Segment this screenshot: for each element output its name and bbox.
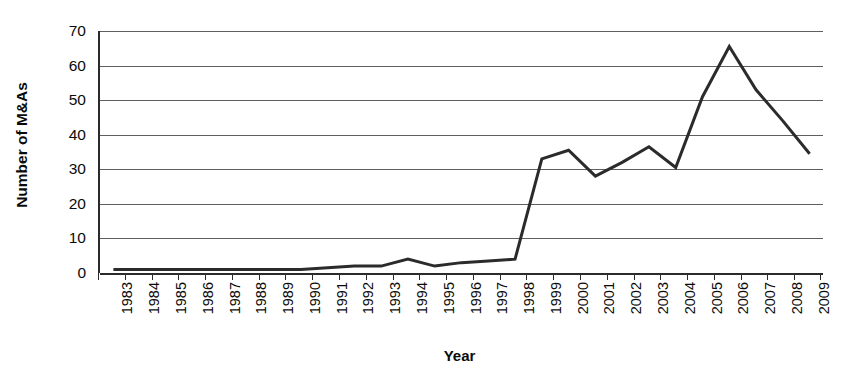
x-tick [714, 273, 715, 280]
x-tick [767, 273, 768, 280]
x-tick-label-2008: 2008 [787, 280, 807, 342]
x-tick-label-1986: 1986 [198, 280, 218, 342]
series-line [100, 31, 823, 273]
x-tick [446, 273, 447, 280]
y-axis-title: Number of M&As [0, 0, 44, 290]
x-tick-label-1998: 1998 [519, 280, 539, 342]
x-tick-label-1994: 1994 [412, 280, 432, 342]
x-tick-label-1996: 1996 [466, 280, 486, 342]
x-tick-label-2001: 2001 [599, 280, 619, 342]
y-axis-tick-labels: 010203040506070 [44, 0, 92, 290]
x-tick [687, 273, 688, 280]
y-tick-label-10: 10 [69, 229, 86, 247]
y-tick-label-50: 50 [69, 91, 86, 109]
x-tick [607, 273, 608, 280]
x-tick-label-2007: 2007 [760, 280, 780, 342]
x-tick-label-1985: 1985 [171, 280, 191, 342]
y-tick-label-0: 0 [77, 264, 86, 282]
series-polyline [113, 47, 809, 270]
x-tick [419, 273, 420, 280]
y-tick-label-60: 60 [69, 57, 86, 75]
x-tick-label-1987: 1987 [225, 280, 245, 342]
x-tick-label-1991: 1991 [332, 280, 352, 342]
x-tick [205, 273, 206, 280]
x-tick-label-1983: 1983 [117, 280, 137, 342]
x-tick [339, 273, 340, 280]
x-tick-label-1992: 1992 [358, 280, 378, 342]
plot-area [98, 31, 823, 273]
y-tick-label-70: 70 [69, 22, 86, 40]
x-tick [178, 273, 179, 280]
x-tick [312, 273, 313, 280]
x-tick-label-2000: 2000 [573, 280, 593, 342]
x-tick-label-2009: 2009 [814, 280, 834, 342]
x-tick [259, 273, 260, 280]
x-tick [794, 273, 795, 280]
x-tick-label-2005: 2005 [707, 280, 727, 342]
x-tick [98, 273, 99, 280]
x-tick [366, 273, 367, 280]
x-tick-label-1984: 1984 [144, 280, 164, 342]
x-tick [580, 273, 581, 280]
x-tick [285, 273, 286, 280]
x-tick-label-2003: 2003 [653, 280, 673, 342]
x-tick [634, 273, 635, 280]
x-tick-label-1995: 1995 [439, 280, 459, 342]
x-tick [125, 273, 126, 280]
y-axis-title-text: Number of M&As [13, 82, 31, 208]
x-tick-label-1988: 1988 [251, 280, 271, 342]
y-tick-label-40: 40 [69, 126, 86, 144]
x-tick-label-2002: 2002 [626, 280, 646, 342]
x-tick [741, 273, 742, 280]
x-tick [152, 273, 153, 280]
x-axis-tick-labels: 1983198419851986198719881989199019911992… [98, 280, 821, 342]
x-tick-label-1993: 1993 [385, 280, 405, 342]
x-tick [526, 273, 527, 280]
mergers-acquisitions-line-chart: Number of M&As 010203040506070 198319841… [0, 0, 847, 381]
x-tick-label-1999: 1999 [546, 280, 566, 342]
x-tick [500, 273, 501, 280]
x-tick-label-1990: 1990 [305, 280, 325, 342]
x-tick [660, 273, 661, 280]
x-tick-label-2004: 2004 [680, 280, 700, 342]
x-tick-label-1989: 1989 [278, 280, 298, 342]
x-tick-label-2006: 2006 [733, 280, 753, 342]
x-tick [473, 273, 474, 280]
x-tick [553, 273, 554, 280]
x-axis-ticks [98, 273, 821, 280]
x-tick [393, 273, 394, 280]
x-tick [232, 273, 233, 280]
x-tick [820, 273, 821, 280]
y-tick-label-20: 20 [69, 195, 86, 213]
x-axis-title: Year [98, 347, 821, 364]
x-tick-label-1997: 1997 [492, 280, 512, 342]
y-tick-label-30: 30 [69, 160, 86, 178]
